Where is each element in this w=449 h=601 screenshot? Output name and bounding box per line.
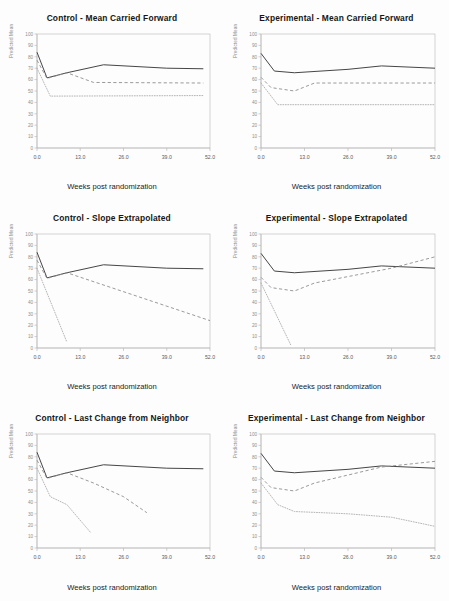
y-tick-label: 60: [28, 477, 34, 482]
y-tick-label: 50: [28, 89, 34, 94]
x-tick-label: 52.0: [430, 154, 440, 160]
y-tick-label: 100: [249, 232, 257, 237]
x-tick-label: 0.0: [33, 354, 40, 360]
y-tick-label: 0: [254, 146, 257, 151]
y-tick-label: 10: [252, 134, 258, 139]
chart-svg: 01020304050607080901000.013.026.039.052.…: [224, 226, 449, 376]
y-tick-label: 90: [28, 43, 34, 48]
y-tick-label: 40: [28, 100, 34, 105]
x-tick-label: 13.0: [75, 554, 85, 560]
y-tick-label: 90: [252, 443, 258, 448]
y-tick-label: 20: [28, 123, 34, 128]
chart-svg: 01020304050607080901000.013.026.039.052.…: [224, 26, 449, 176]
plot-frame: [37, 434, 210, 548]
panel-title: Experimental - Slope Extrapolated: [224, 213, 449, 223]
y-tick-label: 30: [252, 112, 258, 117]
x-tick-label: 39.0: [386, 554, 396, 560]
y-axis: 0102030405060708090100: [249, 32, 261, 151]
y-tick-label: 90: [252, 243, 258, 248]
y-tick-label: 80: [252, 55, 258, 60]
y-axis: 0102030405060708090100: [25, 432, 37, 551]
x-axis-label: Weeks post randomization: [0, 583, 224, 592]
plot-frame: [37, 234, 210, 348]
y-tick-label: 50: [28, 489, 34, 494]
plot-area: 01020304050607080901000.013.026.039.052.…: [224, 226, 449, 376]
x-tick-label: 26.0: [118, 554, 128, 560]
x-tick-label: 52.0: [205, 154, 215, 160]
chart-svg: 01020304050607080901000.013.026.039.052.…: [224, 426, 449, 576]
y-tick-label: 50: [252, 89, 258, 94]
y-tick-label: 30: [252, 512, 258, 517]
y-tick-label: 0: [30, 146, 33, 151]
x-axis-label: Weeks post randomization: [224, 182, 449, 191]
y-tick-label: 60: [28, 277, 34, 282]
y-tick-label: 70: [252, 466, 258, 471]
plot-area: 01020304050607080901000.013.026.039.052.…: [0, 226, 224, 376]
y-tick-label: 20: [28, 323, 34, 328]
y-tick-label: 50: [28, 289, 34, 294]
panel-experimental-slope-extrapolated: Experimental - Slope Extrapolated Predic…: [224, 200, 449, 400]
x-tick-label: 0.0: [257, 154, 264, 160]
x-tick-label: 26.0: [343, 154, 353, 160]
y-axis: 0102030405060708090100: [249, 232, 261, 351]
y-tick-label: 50: [252, 289, 258, 294]
series-line-solid: [261, 453, 435, 472]
series-line-dashed: [261, 77, 435, 91]
y-tick-label: 30: [28, 312, 34, 317]
x-tick-label: 39.0: [386, 154, 396, 160]
x-tick-label: 0.0: [33, 554, 40, 560]
series-line-dashed: [37, 260, 210, 320]
x-tick-label: 0.0: [257, 554, 264, 560]
x-axis: 0.013.026.039.052.0: [257, 348, 440, 360]
y-tick-label: 100: [249, 432, 257, 437]
x-tick-label: 39.0: [162, 354, 172, 360]
x-tick-label: 39.0: [386, 354, 396, 360]
x-tick-label: 39.0: [162, 554, 172, 560]
chart-svg: 01020304050607080901000.013.026.039.052.…: [0, 426, 224, 576]
panel-title: Control - Mean Carried Forward: [0, 13, 224, 23]
y-tick-label: 0: [254, 346, 257, 351]
x-tick-label: 13.0: [299, 354, 309, 360]
x-tick-label: 26.0: [343, 354, 353, 360]
x-tick-label: 52.0: [430, 354, 440, 360]
y-tick-label: 70: [28, 66, 34, 71]
x-tick-label: 13.0: [299, 154, 309, 160]
y-tick-label: 70: [252, 266, 258, 271]
x-axis-label: Weeks post randomization: [224, 583, 449, 592]
y-tick-label: 20: [252, 123, 258, 128]
plot-area: 01020304050607080901000.013.026.039.052.…: [0, 26, 224, 176]
y-tick-label: 40: [252, 500, 258, 505]
x-axis: 0.013.026.039.052.0: [33, 348, 215, 360]
panel-title: Control - Last Change from Neighbor: [0, 413, 224, 423]
panel-control-last-change-from-neighbor: Control - Last Change from Neighbor Pred…: [0, 400, 224, 601]
y-axis: 0102030405060708090100: [249, 432, 261, 551]
x-axis: 0.013.026.039.052.0: [257, 148, 440, 160]
x-tick-label: 39.0: [162, 154, 172, 160]
x-tick-label: 26.0: [343, 554, 353, 560]
x-tick-label: 52.0: [430, 554, 440, 560]
x-tick-label: 52.0: [205, 354, 215, 360]
x-tick-label: 52.0: [205, 554, 215, 560]
plot-frame: [261, 34, 435, 148]
chart-svg: 01020304050607080901000.013.026.039.052.…: [0, 26, 224, 176]
y-tick-label: 20: [28, 523, 34, 528]
panel-experimental-last-change-from-neighbor: Experimental - Last Change from Neighbor…: [224, 400, 449, 601]
y-tick-label: 30: [28, 112, 34, 117]
y-tick-label: 30: [252, 312, 258, 317]
series-line-dotted: [261, 283, 291, 346]
figure-page: Control - Mean Carried Forward Predicted…: [0, 0, 449, 601]
y-tick-label: 10: [28, 334, 34, 339]
series-line-dashed: [261, 461, 435, 491]
series-line-solid: [261, 53, 435, 72]
plot-frame: [261, 434, 435, 548]
series-line-dotted: [37, 268, 67, 342]
series-line-dashed: [261, 257, 435, 291]
series-line-solid: [261, 253, 435, 272]
x-axis-label: Weeks post randomization: [224, 382, 449, 391]
y-tick-label: 100: [249, 32, 257, 37]
y-tick-label: 40: [252, 100, 258, 105]
y-tick-label: 50: [252, 489, 258, 494]
y-tick-label: 60: [28, 77, 34, 82]
panel-grid: Control - Mean Carried Forward Predicted…: [0, 0, 449, 601]
y-tick-label: 80: [28, 455, 34, 460]
